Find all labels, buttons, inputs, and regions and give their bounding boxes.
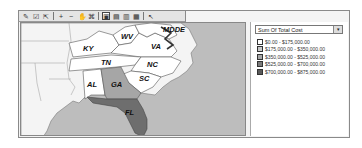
legend-item: $700,000.00 - $875,000.00 xyxy=(257,68,325,75)
zoom-out-icon[interactable]: − xyxy=(67,12,75,20)
legend-swatch xyxy=(257,61,263,67)
map-canvas[interactable]: KY WV VA MDDE TN NC SC AL GA FL xyxy=(21,23,246,136)
state-fl xyxy=(87,97,147,136)
layout-2-icon[interactable]: ▤ xyxy=(112,12,120,20)
legend-swatch xyxy=(257,39,263,45)
legend-panel: Sum Of Total Cost ▾ $0.00 - $175,000.00 … xyxy=(250,22,348,136)
svg-text:AL: AL xyxy=(86,80,97,89)
zoom-in-icon[interactable]: + xyxy=(57,12,65,20)
svg-text:WV: WV xyxy=(121,32,134,41)
properties-icon[interactable]: ☑ xyxy=(32,12,40,20)
legend-item: $175,000.00 - $350,000.00 xyxy=(257,46,325,53)
legend-swatch xyxy=(257,54,263,60)
legend-item: $350,000.00 - $525,000.00 xyxy=(257,53,325,60)
chevron-down-icon[interactable]: ▾ xyxy=(333,26,342,33)
choropleth-map[interactable]: KY WV VA MDDE TN NC SC AL GA FL xyxy=(20,22,246,136)
legend-field-dropdown[interactable]: Sum Of Total Cost ▾ xyxy=(255,25,343,34)
legend-label: $175,000.00 - $350,000.00 xyxy=(265,46,325,52)
layout-4-icon[interactable]: ▦ xyxy=(132,12,140,20)
legend-label: $350,000.00 - $525,000.00 xyxy=(265,54,325,60)
svg-text:FL: FL xyxy=(125,108,135,117)
pan-icon[interactable]: ✋ xyxy=(77,12,85,20)
svg-text:KY: KY xyxy=(83,44,94,53)
svg-text:SC: SC xyxy=(139,74,150,83)
map-toolbar: ✎ ☑ ⇱ + − ✋ ⌘ ▣ ▤ ▥ ▦ ↖ xyxy=(18,10,186,22)
toolbar-separator xyxy=(143,12,144,20)
full-extent-icon[interactable]: ⌘ xyxy=(87,12,95,20)
layout-1-icon[interactable]: ▣ xyxy=(102,12,110,20)
legend-label: $700,000.00 - $875,000.00 xyxy=(265,69,325,75)
svg-text:NC: NC xyxy=(147,60,158,69)
toolbar-separator xyxy=(98,12,99,20)
edit-map-icon[interactable]: ✎ xyxy=(22,12,30,20)
toolbar-separator xyxy=(53,12,54,20)
svg-text:VA: VA xyxy=(151,42,161,51)
legend-label: $525,000.00 - $700,000.00 xyxy=(265,61,325,67)
layout-3-icon[interactable]: ▥ xyxy=(122,12,130,20)
select-icon[interactable]: ↖ xyxy=(147,12,155,20)
legend-items: $0.00 - $175,000.00 $175,000.00 - $350,0… xyxy=(257,38,325,76)
legend-item: $0.00 - $175,000.00 xyxy=(257,38,325,45)
legend-item: $525,000.00 - $700,000.00 xyxy=(257,61,325,68)
legend-label: $0.00 - $175,000.00 xyxy=(265,39,310,45)
svg-text:GA: GA xyxy=(111,80,122,89)
legend-swatch xyxy=(257,69,263,75)
legend-swatch xyxy=(257,46,263,52)
legend-field-label: Sum Of Total Cost xyxy=(258,27,303,33)
svg-text:TN: TN xyxy=(101,58,112,67)
export-icon[interactable]: ⇱ xyxy=(42,12,50,20)
svg-text:MDDE: MDDE xyxy=(163,25,186,34)
